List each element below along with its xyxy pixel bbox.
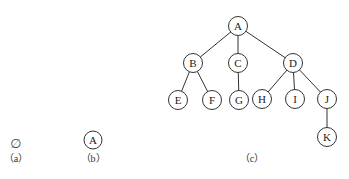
svg-text:H: H <box>258 93 266 105</box>
svg-text:J: J <box>325 93 330 105</box>
svg-text:A: A <box>89 134 97 146</box>
tree-node-b-a: A <box>84 131 102 149</box>
tree-figure: ∅ （a） A （b） A B C D E F G H I <box>0 0 349 179</box>
tree-node-g: G <box>230 91 249 110</box>
svg-text:I: I <box>293 93 297 105</box>
caption-a: （a） <box>4 153 28 164</box>
svg-text:K: K <box>323 131 331 143</box>
tree-node-e: E <box>169 91 188 110</box>
panel-a: ∅ （a） <box>4 136 28 164</box>
svg-text:D: D <box>289 57 297 69</box>
svg-text:E: E <box>175 94 182 106</box>
panel-c: A B C D E F G H I J K （c） <box>169 17 337 165</box>
svg-text:B: B <box>189 57 196 69</box>
empty-set-symbol: ∅ <box>10 136 21 151</box>
tree-node-b: B <box>184 54 203 73</box>
tree-node-a: A <box>229 17 248 36</box>
tree-node-d: D <box>284 54 303 73</box>
tree-node-j: J <box>318 90 337 109</box>
caption-c: （c） <box>240 153 264 164</box>
svg-text:F: F <box>209 94 215 106</box>
edges <box>178 26 327 137</box>
svg-text:C: C <box>234 57 241 69</box>
tree-node-k: K <box>318 128 337 147</box>
tree-node-i: I <box>286 90 305 109</box>
tree-node-f: F <box>203 91 222 110</box>
svg-text:G: G <box>235 94 243 106</box>
panel-b: A （b） <box>81 131 106 164</box>
tree-node-c: C <box>229 54 248 73</box>
tree-node-h: H <box>253 90 272 109</box>
caption-b: （b） <box>81 153 106 164</box>
svg-text:A: A <box>234 20 242 32</box>
